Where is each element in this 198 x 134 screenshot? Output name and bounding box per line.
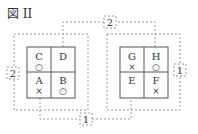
- cell-letter-g: G: [128, 51, 136, 62]
- cell-letter-f: F: [153, 75, 160, 86]
- cell-mark-c: ○: [35, 62, 43, 72]
- bottom-connector-right: [92, 98, 131, 119]
- top-label: 2: [107, 17, 113, 28]
- figure-title: 図 II: [7, 7, 33, 21]
- cell-letter-a: A: [34, 75, 43, 86]
- bottom-connector-left: [40, 98, 80, 119]
- left-grid: C ○ D A × B ○: [27, 47, 75, 98]
- cell-mark-f: ×: [152, 86, 160, 96]
- cell-mark-b: ○: [59, 86, 67, 96]
- cell-letter-e: E: [128, 75, 135, 86]
- right-label: 1: [177, 65, 183, 76]
- cell-letter-d: D: [59, 51, 67, 62]
- cell-mark-g: ×: [128, 62, 136, 72]
- cell-letter-b: B: [59, 75, 66, 86]
- bottom-label: 1: [83, 114, 89, 125]
- cell-letter-c: C: [35, 51, 43, 62]
- cell-mark-h: ○: [152, 62, 160, 72]
- cell-mark-a: ×: [35, 86, 43, 96]
- left-label: 2: [10, 68, 16, 79]
- cell-letter-h: H: [152, 51, 161, 62]
- right-grid: G × H ○ E F ×: [120, 47, 168, 98]
- diagram-canvas: 図 II 2 2 1 1 C ○ D A × B ○ G × H ○ E: [0, 0, 198, 134]
